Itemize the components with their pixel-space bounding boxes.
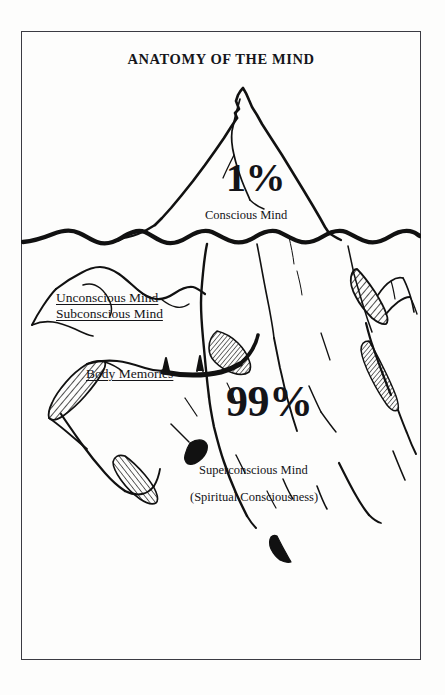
label-spiritual-consciousness: (Spiritual Consciousness) <box>190 490 318 505</box>
diagram-page: ANATOMY OF THE MIND <box>0 0 445 695</box>
percentage-below-water: 99% <box>226 378 313 426</box>
label-unconscious-mind: Unconscious Mind <box>56 290 158 306</box>
iceberg-illustration <box>21 31 421 660</box>
percentage-above-water: 1% <box>226 156 285 200</box>
label-conscious-mind: Conscious Mind <box>205 208 287 223</box>
label-subconscious-mind: Subconscious Mind <box>56 306 163 322</box>
label-body-memories: Body Memories <box>86 366 173 382</box>
label-superconscious-mind: Superconscious Mind <box>199 463 308 478</box>
